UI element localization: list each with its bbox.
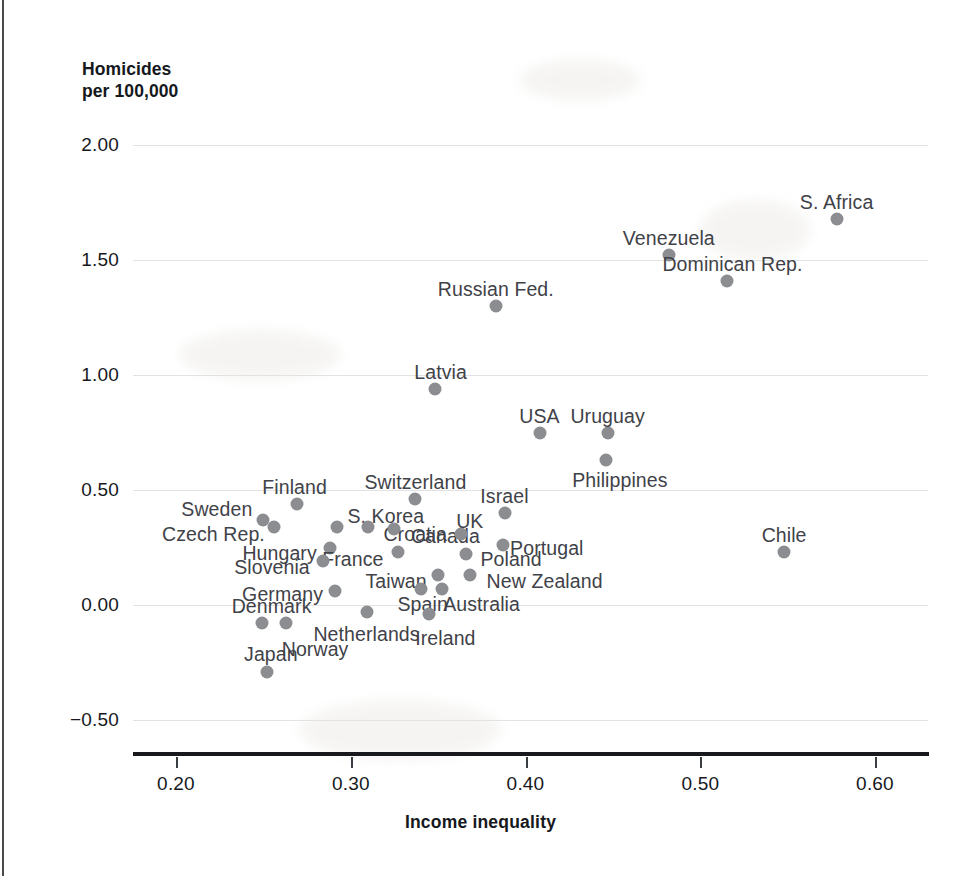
data-point-marker[interactable]: [460, 548, 473, 561]
gridline: [133, 260, 928, 261]
data-point-label: Israel: [480, 485, 528, 508]
data-point-marker[interactable]: [778, 546, 791, 559]
data-point-marker[interactable]: [599, 454, 612, 467]
data-point-marker[interactable]: [533, 426, 546, 439]
x-axis-tick-mark: [700, 757, 702, 768]
scatter-plot: Homicides per 100,000 2.001.501.000.500.…: [0, 0, 961, 876]
data-point-marker[interactable]: [432, 569, 445, 582]
data-point-marker[interactable]: [280, 617, 293, 630]
data-point-marker[interactable]: [423, 608, 436, 621]
data-point-marker[interactable]: [463, 569, 476, 582]
x-axis-tick-label: 0.20: [157, 773, 195, 795]
y-axis-title: Homicides per 100,000: [82, 58, 178, 102]
y-axis-tick-label: 1.00: [45, 364, 119, 386]
data-point-marker[interactable]: [362, 520, 375, 533]
data-point-label: Denmark: [232, 595, 312, 618]
x-axis-title: Income inequality: [0, 812, 961, 833]
data-point-marker[interactable]: [720, 274, 733, 287]
data-point-label: Dominican Rep.: [662, 253, 802, 276]
data-point-marker[interactable]: [391, 546, 404, 559]
x-axis-tick-label: 0.40: [507, 773, 545, 795]
gridline: [133, 490, 928, 491]
x-axis-tick-label: 0.50: [681, 773, 719, 795]
data-point-marker[interactable]: [830, 212, 843, 225]
x-axis-line: [133, 752, 929, 756]
data-point-label: Venezuela: [623, 227, 715, 250]
data-point-label: Poland: [480, 548, 541, 571]
data-point-label: Slovenia: [234, 556, 310, 579]
x-axis-tick-mark: [526, 757, 528, 768]
data-point-label: Japan: [244, 643, 298, 666]
data-point-label: Sweden: [181, 498, 252, 521]
data-point-label: USA: [519, 405, 559, 428]
data-point-marker[interactable]: [255, 617, 268, 630]
data-point-label: Philippines: [572, 469, 667, 492]
data-point-marker[interactable]: [330, 520, 343, 533]
data-point-marker[interactable]: [409, 493, 422, 506]
chart-page: Homicides per 100,000 2.001.501.000.500.…: [0, 0, 961, 876]
data-point-marker[interactable]: [267, 520, 280, 533]
data-point-label: Finland: [262, 476, 327, 499]
gridline: [133, 720, 928, 721]
y-axis-tick-label: 0.00: [45, 594, 119, 616]
data-point-label: New Zealand: [487, 570, 603, 593]
y-axis-tick-label: 1.50: [45, 249, 119, 271]
data-point-label: Chile: [762, 524, 807, 547]
data-point-marker[interactable]: [360, 605, 373, 618]
data-point-marker[interactable]: [601, 426, 614, 439]
y-axis-tick-label: 2.00: [45, 134, 119, 156]
data-point-marker[interactable]: [260, 665, 273, 678]
x-axis-tick-mark: [176, 757, 178, 768]
gridline: [133, 375, 928, 376]
data-point-label: Switzerland: [364, 471, 466, 494]
data-point-label: UK: [456, 510, 483, 533]
data-point-marker[interactable]: [489, 300, 502, 313]
y-axis-tick-label: −0.50: [45, 709, 119, 731]
gridline: [133, 145, 928, 146]
x-axis-tick-label: 0.60: [856, 773, 894, 795]
data-point-label: France: [322, 548, 383, 571]
data-point-marker[interactable]: [290, 497, 303, 510]
x-axis-tick-mark: [351, 757, 353, 768]
x-axis-tick-label: 0.30: [332, 773, 370, 795]
data-point-marker[interactable]: [428, 382, 441, 395]
data-point-marker[interactable]: [388, 523, 401, 536]
data-point-label: Ireland: [415, 627, 475, 650]
data-point-marker[interactable]: [316, 555, 329, 568]
data-point-label: Australia: [443, 593, 520, 616]
data-point-marker[interactable]: [329, 585, 342, 598]
data-point-label: Russian Fed.: [438, 278, 554, 301]
data-point-marker[interactable]: [498, 507, 511, 520]
data-point-label: Uruguay: [570, 405, 644, 428]
y-axis-tick-label: 0.50: [45, 479, 119, 501]
x-axis-tick-mark: [875, 757, 877, 768]
data-point-label: Latvia: [414, 361, 467, 384]
data-point-label: S. Africa: [800, 191, 874, 214]
